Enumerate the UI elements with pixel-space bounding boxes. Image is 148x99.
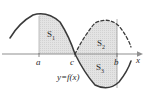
figure-canvas xyxy=(0,0,148,99)
integral-area-figure: a c b x S1 S2 S3 y=f(x) xyxy=(0,0,148,99)
region-label-s1-subscript: 1 xyxy=(52,35,55,41)
region-label-s1: S1 xyxy=(47,30,55,41)
axis-tick-label-a: a xyxy=(36,58,41,67)
axis-tick-label-b: b xyxy=(114,58,119,67)
region-label-s3: S3 xyxy=(96,63,104,74)
function-label: y=f(x) xyxy=(57,73,80,82)
region-label-s2: S2 xyxy=(97,39,105,50)
axis-label-x: x xyxy=(136,56,140,65)
region-label-s2-subscript: 2 xyxy=(102,44,105,50)
axis-tick-label-c: c xyxy=(70,58,74,67)
shaded-region-s1 xyxy=(10,14,75,54)
region-label-s3-subscript: 3 xyxy=(101,68,104,74)
